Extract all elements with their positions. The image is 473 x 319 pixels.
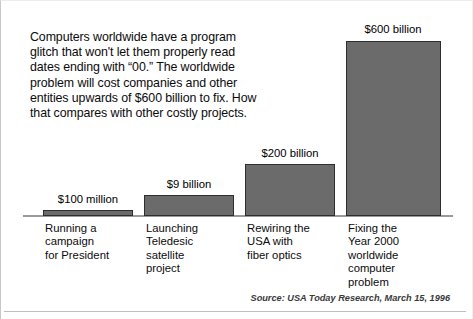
bar-fixing-the-year-2000-worldwide-computer-problem[interactable] xyxy=(346,41,441,216)
bar-chart-plot: $100 million Running a campaign for Pres… xyxy=(1,1,473,319)
bar-category-label-1: Running a campaign for President xyxy=(45,222,141,262)
chart-figure: Computers worldwide have a program glitc… xyxy=(0,0,473,319)
bar-value-label-2: $9 billion xyxy=(136,178,242,191)
bar-launching-teledesic-satellite-project[interactable] xyxy=(144,195,234,216)
bar-value-label-1: $100 million xyxy=(35,193,141,206)
bar-category-label-3: Rewiring the USA with fiber optics xyxy=(247,222,345,262)
bar-running-a-campaign-for-president[interactable] xyxy=(43,210,133,216)
bar-category-label-4: Fixing the Year 2000 worldwide computer … xyxy=(348,222,446,289)
bar-category-label-2: Launching Teledesic satellite project xyxy=(146,222,242,276)
bar-rewiring-the-usa-with-fiber-optics[interactable] xyxy=(245,164,335,216)
bar-value-label-4: $600 billion xyxy=(340,23,446,36)
bottom-divider xyxy=(4,311,466,312)
source-note: Source: USA Today Research, March 15, 19… xyxy=(251,293,451,303)
bar-value-label-3: $200 billion xyxy=(237,147,343,160)
